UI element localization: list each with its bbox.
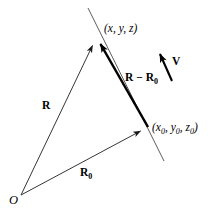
vector-label-r0-sub: 0	[88, 172, 92, 181]
point-label-x0y0z0-close: )	[194, 121, 198, 133]
point-label-x0y0z0-mid1: , y	[165, 121, 176, 133]
point-label-x0-subscript: 0	[161, 127, 165, 136]
vector-r0-arrow	[21, 131, 141, 195]
vector-label-v: V	[172, 56, 180, 68]
vector-label-r: R	[42, 100, 50, 112]
vector-v-arrow	[160, 54, 172, 81]
origin-label: O	[9, 194, 18, 207]
point-label-x0y0z0-open: (x	[152, 121, 161, 133]
vector-label-minus-sign: −	[133, 71, 145, 83]
vector-label-r0-subscript: 0	[154, 77, 158, 86]
vector-label-r-minus-r0-second: R	[146, 71, 154, 83]
point-label-x0y0z0: (x0, y0, z0)	[152, 122, 198, 134]
vector-r-minus-r0-arrow	[101, 44, 149, 127]
vector-label-r-minus-r0: R − R0	[125, 72, 158, 84]
vector-diagram-figure: (x, y, z) (x0, y0, z0) R R − R0 R0 V O	[0, 0, 212, 217]
point-label-x0y0z0-mid2: , z	[180, 121, 190, 133]
vector-label-r0: R0	[80, 167, 92, 179]
point-label-y0-subscript: 0	[176, 127, 180, 136]
point-label-z0-subscript: 0	[190, 127, 194, 136]
point-label-xyz: (x, y, z)	[104, 23, 137, 35]
